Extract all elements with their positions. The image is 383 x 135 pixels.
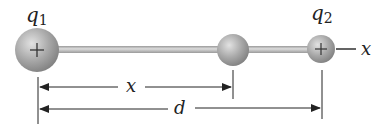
q2-label: q2 [311,1,333,26]
charge-q2 [307,35,335,63]
x-dimension-label: x [126,75,136,96]
rod [50,46,312,53]
test-charge-sphere [217,34,249,66]
d-dimension-label: d [174,97,186,118]
axis-x-label: x [361,38,371,59]
charge-diagram: q1 q2 x x d [0,0,383,135]
charge-q1 [15,28,59,72]
q1-label: q1 [26,3,48,28]
